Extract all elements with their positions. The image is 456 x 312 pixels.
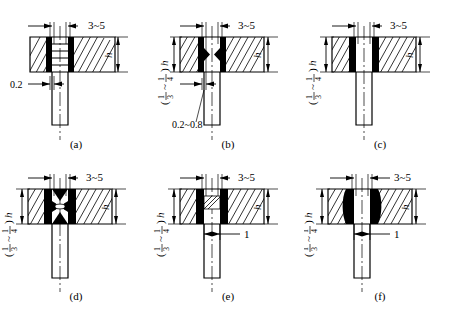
- height-label-d: h: [99, 204, 111, 210]
- svg-text:1: 1: [305, 95, 314, 99]
- svg-text:1: 1: [153, 229, 162, 233]
- root-label-b: 0.2~0.8: [172, 119, 202, 130]
- svg-text:1: 1: [157, 77, 166, 81]
- svg-text:3: 3: [162, 247, 171, 251]
- svg-text:4: 4: [310, 229, 319, 233]
- svg-text:1: 1: [153, 247, 162, 251]
- caption-b: (b): [152, 138, 304, 150]
- offset-label-f: 1: [394, 228, 400, 240]
- panel-e: 3~5 h 1 ( 1 3 ~ 1 4 ) h (e): [152, 156, 304, 312]
- height-label-b: h: [251, 52, 263, 58]
- svg-text:~: ~: [158, 84, 170, 90]
- panel-a: 3~5 h 0.2 (a): [0, 0, 152, 156]
- svg-text:h: h: [158, 60, 170, 66]
- svg-text:4: 4: [162, 229, 171, 233]
- svg-text:1: 1: [305, 77, 314, 81]
- svg-text:h: h: [154, 212, 166, 218]
- svg-text:): ): [158, 68, 171, 72]
- svg-text:~: ~: [306, 84, 318, 90]
- svg-text:4: 4: [10, 229, 19, 233]
- svg-text:~: ~: [304, 236, 314, 242]
- svg-text:): ): [154, 220, 167, 224]
- gap-label-d: 3~5: [86, 171, 103, 183]
- svg-text:3: 3: [314, 95, 323, 99]
- panel-f: 3~5 h 1 ( 1 3 ~ 1 4 ) h (f): [304, 156, 456, 312]
- gap-label-c: 3~5: [390, 19, 407, 31]
- height-label-e: h: [251, 204, 263, 210]
- offset-label-e: 1: [244, 228, 250, 240]
- fraction-label-d: ( 1 3 ~ 1 4 ) h: [1, 212, 19, 257]
- svg-text:(: (: [306, 101, 319, 105]
- height-label-f: h: [399, 204, 411, 210]
- caption-d: (d): [0, 290, 152, 302]
- svg-text:(: (: [158, 101, 171, 105]
- svg-text:h: h: [304, 212, 314, 218]
- svg-text:): ): [306, 68, 319, 72]
- svg-text:4: 4: [166, 77, 175, 81]
- svg-text:): ): [2, 220, 15, 224]
- svg-text:h: h: [306, 60, 318, 66]
- gap-label-b: 3~5: [238, 19, 255, 31]
- svg-text:~: ~: [154, 236, 166, 242]
- caption-f: (f): [304, 290, 456, 302]
- gap-label-e: 3~5: [238, 171, 255, 183]
- panel-b: 3~5 h ( 1 3 ~ 1 4 ) h 0.2~0.8 (b): [152, 0, 304, 156]
- fraction-label-b: ( 1 3 ~ 1 4 ) h: [157, 60, 175, 105]
- caption-a: (a): [0, 138, 152, 150]
- caption-c: (c): [304, 138, 456, 150]
- fraction-label-e: ( 1 3 ~ 1 4 ) h: [153, 212, 171, 257]
- figure-sheet: 3~5 h 0.2 (a): [0, 0, 456, 312]
- svg-text:1: 1: [1, 247, 10, 251]
- svg-text:3: 3: [166, 95, 175, 99]
- svg-text:): ): [304, 220, 315, 224]
- svg-text:(: (: [154, 253, 167, 257]
- svg-text:3: 3: [10, 247, 19, 251]
- svg-text:(: (: [2, 253, 15, 257]
- fraction-label-f: ( 1 3 ~ 1 4 ) h: [304, 212, 319, 257]
- caption-e: (e): [152, 290, 304, 302]
- root-label-a: 0.2: [10, 79, 23, 90]
- panel-d: 3~5 h ( 1 3 ~ 1 4 ) h (d): [0, 156, 152, 312]
- svg-text:1: 1: [157, 95, 166, 99]
- svg-text:~: ~: [2, 236, 14, 242]
- svg-text:1: 1: [1, 229, 10, 233]
- height-label-c: h: [403, 52, 415, 58]
- gap-label-f: 3~5: [394, 171, 411, 183]
- height-label-a: h: [102, 52, 114, 58]
- fraction-label-c: ( 1 3 ~ 1 4 ) h: [305, 60, 323, 105]
- gap-label-a: 3~5: [88, 19, 105, 31]
- svg-text:3: 3: [310, 247, 319, 251]
- panel-c: 3~5 h ( 1 3 ~ 1 4 ) h (c): [304, 0, 456, 156]
- svg-text:4: 4: [314, 77, 323, 81]
- svg-text:(: (: [304, 253, 315, 257]
- svg-text:h: h: [2, 212, 14, 218]
